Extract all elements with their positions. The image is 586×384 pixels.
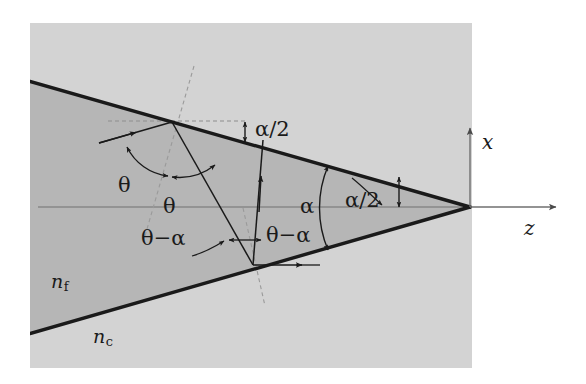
label-theta-incident: θ <box>118 175 131 196</box>
label-theta-reflected: θ <box>163 196 176 217</box>
taper-diagram <box>0 0 586 384</box>
label-index-film-base: n <box>51 270 63 292</box>
label-theta-minus-alpha-right: θ−α <box>266 225 310 246</box>
label-axis-z: z <box>524 218 535 238</box>
label-axis-x: x <box>482 132 493 152</box>
label-index-film: nf <box>51 272 68 291</box>
label-theta-minus-alpha-left: θ−α <box>141 228 185 249</box>
label-index-film-subscript: f <box>64 279 69 294</box>
label-alpha-half-top: α/2 <box>255 119 290 140</box>
label-alpha-full: α <box>300 196 314 217</box>
label-index-cladding: nc <box>93 327 112 346</box>
figure-root: θ θ α/2 α α/2 θ−α θ−α x z nf nc <box>0 0 586 384</box>
label-index-cladding-subscript: c <box>106 334 113 349</box>
label-alpha-half-right: α/2 <box>345 190 380 211</box>
label-index-cladding-base: n <box>93 325 105 347</box>
